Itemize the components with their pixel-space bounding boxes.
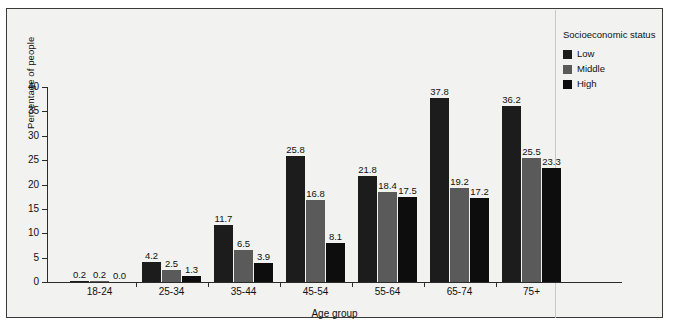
y-axis-line	[47, 87, 48, 283]
x-tick-label: 45-54	[303, 286, 329, 297]
legend-swatch-icon	[563, 50, 572, 59]
bar-group: 0.20.20.018-24	[70, 87, 129, 282]
bar-value-label: 16.8	[306, 188, 325, 199]
bar-group: 4.22.51.325-34	[142, 87, 201, 282]
bar-high[interactable]: 23.3	[542, 168, 561, 282]
legend-swatch-icon	[563, 80, 572, 89]
bar-group: 25.816.88.145-54	[286, 87, 345, 282]
legend-item-low[interactable]: Low	[563, 47, 659, 61]
bar-low[interactable]: 4.2	[142, 262, 161, 282]
y-tick-label: 35	[28, 104, 39, 117]
bar-value-label: 11.7	[215, 213, 233, 224]
y-tick: 5	[42, 258, 47, 259]
bar-value-label: 8.1	[329, 231, 342, 242]
bar-group: 36.225.523.375+	[502, 87, 561, 282]
bar-middle[interactable]: 25.5	[522, 158, 541, 282]
x-tick-label: 25-34	[159, 286, 185, 297]
chart-figure: Percentage of people Age group 051015202…	[6, 8, 663, 318]
bar-low[interactable]: 0.2	[70, 281, 89, 282]
y-tick: 25	[42, 160, 47, 161]
bar-low[interactable]: 36.2	[502, 106, 521, 282]
bar-high[interactable]: 17.2	[470, 198, 489, 282]
legend-swatch-icon	[563, 65, 572, 74]
y-tick: 35	[42, 111, 47, 112]
x-tick-label: 75+	[523, 286, 540, 297]
bar-low[interactable]: 21.8	[358, 176, 377, 282]
bar-value-label: 17.5	[398, 185, 417, 196]
legend-item-high[interactable]: High	[563, 77, 659, 91]
bar-value-label: 23.3	[542, 156, 561, 167]
y-tick-label: 40	[28, 80, 39, 93]
y-tick: 0	[42, 282, 47, 283]
bar-value-label: 17.2	[470, 186, 489, 197]
bar-low[interactable]: 25.8	[286, 156, 305, 282]
bar-value-label: 0.0	[113, 270, 126, 281]
bar-group: 37.819.217.265-74	[430, 87, 489, 282]
legend-item-label: Low	[577, 48, 594, 60]
x-tick	[208, 282, 209, 287]
x-axis-title: Age group	[47, 308, 622, 319]
y-tick: 20	[42, 185, 47, 186]
x-tick	[136, 282, 137, 287]
x-tick-label: 35-44	[231, 286, 257, 297]
y-tick: 15	[42, 209, 47, 210]
legend-entries: LowMiddleHigh	[563, 47, 659, 91]
y-tick-label: 0	[33, 275, 39, 288]
bar-value-label: 25.8	[286, 144, 305, 155]
bar-high[interactable]: 17.5	[398, 197, 417, 282]
bar-low[interactable]: 37.8	[430, 98, 449, 282]
bar-value-label: 0.2	[73, 269, 86, 280]
bar-value-label: 18.4	[378, 180, 397, 191]
bar-middle[interactable]: 18.4	[378, 192, 397, 282]
x-tick	[280, 282, 281, 287]
legend-item-label: High	[577, 78, 597, 90]
x-tick-label: 18-24	[87, 286, 113, 297]
bar-value-label: 4.2	[145, 250, 158, 261]
bar-value-label: 37.8	[430, 86, 449, 97]
bar-value-label: 3.9	[257, 251, 270, 262]
legend-item-middle[interactable]: Middle	[563, 62, 659, 76]
x-tick	[352, 282, 353, 287]
y-tick: 30	[42, 136, 47, 137]
bar-value-label: 25.5	[522, 146, 541, 157]
y-tick-label: 20	[28, 178, 39, 191]
bar-value-label: 1.3	[185, 264, 198, 275]
bar-middle[interactable]: 2.5	[162, 270, 181, 282]
x-tick	[424, 282, 425, 287]
y-tick: 40	[42, 87, 47, 88]
bar-low[interactable]: 11.7	[214, 225, 233, 282]
y-tick-label: 15	[28, 202, 39, 215]
y-tick-label: 30	[28, 129, 39, 142]
legend-item-label: Middle	[577, 63, 605, 75]
x-tick-label: 65-74	[447, 286, 473, 297]
plot-area: Percentage of people Age group 051015202…	[47, 87, 547, 282]
x-tick	[496, 282, 497, 287]
bar-middle[interactable]: 19.2	[450, 188, 469, 282]
bar-high[interactable]: 3.9	[254, 263, 273, 282]
bar-value-label: 6.5	[237, 238, 250, 249]
x-axis-line	[47, 282, 622, 283]
bar-value-label: 36.2	[502, 94, 521, 105]
bar-middle[interactable]: 6.5	[234, 250, 253, 282]
bar-value-label: 2.5	[165, 258, 178, 269]
x-tick-label: 55-64	[375, 286, 401, 297]
bar-high[interactable]: 8.1	[326, 243, 345, 282]
bar-value-label: 0.2	[93, 269, 106, 280]
bar-middle[interactable]: 0.2	[90, 281, 109, 282]
legend-title: Socioeconomic status	[563, 29, 659, 41]
bar-value-label: 21.8	[358, 164, 377, 175]
bar-middle[interactable]: 16.8	[306, 200, 325, 282]
bar-group: 11.76.53.935-44	[214, 87, 273, 282]
y-tick-label: 5	[33, 251, 39, 264]
y-tick: 10	[42, 233, 47, 234]
chart-legend: Socioeconomic status LowMiddleHigh	[563, 29, 659, 92]
bar-group: 21.818.417.555-64	[358, 87, 417, 282]
y-tick-label: 25	[28, 153, 39, 166]
bar-value-label: 19.2	[450, 176, 469, 187]
bar-high[interactable]: 1.3	[182, 276, 201, 282]
y-tick-label: 10	[28, 226, 39, 239]
